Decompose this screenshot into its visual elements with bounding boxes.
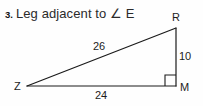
side-length-hypotenuse: 26 xyxy=(93,41,105,52)
vertex-label-z: Z xyxy=(14,81,21,92)
right-angle-marker-icon xyxy=(165,75,176,86)
vertex-label-r: R xyxy=(172,12,180,23)
side-length-vertical-leg: 10 xyxy=(179,51,191,62)
triangle-side-hypotenuse xyxy=(27,28,176,86)
triangle-diagram: R Z M 26 10 24 xyxy=(0,0,203,106)
vertex-label-m: M xyxy=(180,82,189,93)
worksheet-problem-figure: 3.Leg adjacent to ∠ E R Z M 26 10 24 xyxy=(0,0,203,106)
side-length-base-leg: 24 xyxy=(95,90,107,101)
